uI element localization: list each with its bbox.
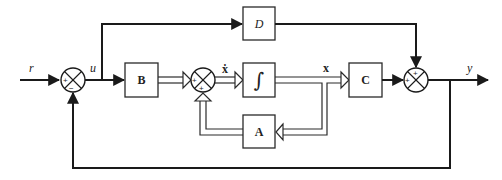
a-feedback-vector-arrow — [195, 93, 243, 135]
xdot-label: ẋ — [222, 62, 228, 76]
output-label-y: y — [466, 61, 473, 75]
input-sum-plus-sign: + — [63, 76, 68, 85]
b-to-state-sum-vector-arrow — [158, 72, 191, 88]
a-block-label: A — [255, 125, 264, 139]
c-block-label: C — [361, 73, 370, 87]
state-space-block-diagram: r + − u D B + + — [0, 0, 502, 180]
state-x-vector-arrow — [275, 72, 349, 140]
output-sum-left-plus: + — [405, 76, 410, 85]
state-x-label: x — [323, 61, 329, 75]
state-sum-bottom-plus: + — [199, 84, 204, 93]
output-sum-top-plus: + — [413, 69, 418, 78]
input-sum-minus-sign: − — [69, 84, 74, 93]
control-label-u: u — [90, 61, 96, 75]
integrator-symbol: ∫ — [254, 68, 264, 92]
d-output-line — [275, 24, 416, 67]
d-block-label: D — [254, 17, 264, 31]
state-sum-left-plus: + — [192, 76, 197, 85]
b-block-label: B — [137, 73, 145, 87]
input-label-r: r — [29, 61, 34, 75]
xdot-vector-arrow — [215, 72, 243, 88]
feedforward-line — [102, 24, 242, 80]
